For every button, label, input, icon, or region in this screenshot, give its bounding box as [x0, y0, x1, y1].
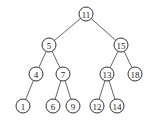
tree-node-4: 4 — [29, 67, 43, 81]
tree-edge — [110, 51, 118, 67]
node-label: 18 — [131, 70, 141, 80]
tree-node-7: 7 — [56, 67, 70, 81]
tree-edge — [99, 81, 105, 100]
tree-node-5: 5 — [42, 38, 56, 52]
tree-edge — [91, 19, 116, 41]
tree-node-12: 12 — [90, 99, 104, 113]
tree-node-18: 18 — [128, 67, 142, 81]
node-label: 15 — [117, 41, 127, 51]
node-label: 13 — [103, 70, 113, 80]
node-label: 5 — [47, 41, 52, 51]
node-label: 1 — [21, 102, 26, 112]
tree-edge — [65, 81, 71, 100]
node-label: 6 — [51, 102, 56, 112]
tree-edge — [55, 81, 61, 100]
tree-edge — [39, 51, 46, 67]
tree-node-13: 13 — [100, 67, 114, 81]
tree-edge — [54, 18, 80, 40]
node-label: 4 — [34, 70, 39, 80]
node-label: 11 — [82, 10, 91, 20]
tree-edge — [109, 81, 115, 100]
tree-diagram: 11 5 15 4 7 13 18 1 6 9 12 14 — [0, 0, 155, 127]
tree-nodes: 11 5 15 4 7 13 18 1 6 9 12 14 — [16, 7, 142, 113]
tree-node-11: 11 — [79, 7, 93, 21]
tree-edge — [26, 80, 34, 99]
tree-node-1: 1 — [16, 99, 30, 113]
tree-node-6: 6 — [46, 99, 60, 113]
node-label: 12 — [93, 102, 102, 112]
tree-node-15: 15 — [114, 38, 128, 52]
tree-edge — [124, 51, 132, 67]
tree-node-9: 9 — [66, 99, 80, 113]
node-label: 7 — [61, 70, 66, 80]
node-label: 14 — [113, 102, 123, 112]
node-label: 9 — [71, 102, 76, 112]
tree-edge — [52, 51, 60, 67]
tree-node-14: 14 — [110, 99, 124, 113]
tree-edges — [26, 18, 132, 99]
